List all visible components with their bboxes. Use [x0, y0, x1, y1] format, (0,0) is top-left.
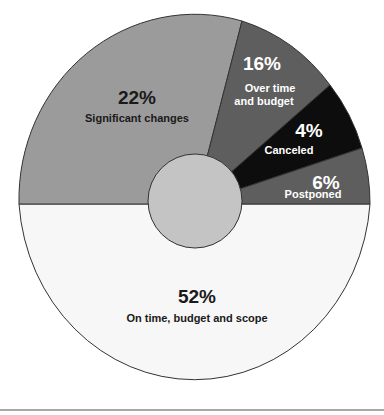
- label-52-text: On time, budget and scope: [126, 312, 267, 324]
- label-4-text: Canceled: [265, 144, 314, 156]
- pie-chart: 22% Significant changes 16% Over time an…: [0, 0, 384, 415]
- label-52-pct: 52%: [178, 286, 216, 307]
- center-circle: [148, 154, 242, 248]
- bottom-rule: [0, 409, 384, 411]
- label-6-text: Postponed: [285, 188, 342, 200]
- label-22-pct: 22%: [118, 87, 156, 108]
- label-22-text: Significant changes: [85, 112, 189, 124]
- label-16-line1: Over time: [245, 82, 296, 94]
- label-4-pct: 4%: [295, 120, 323, 141]
- label-16-line2: and budget: [234, 95, 294, 107]
- label-16-pct: 16%: [243, 53, 281, 74]
